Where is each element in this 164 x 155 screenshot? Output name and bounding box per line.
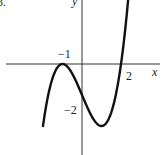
tick-label-2: 2 xyxy=(126,69,132,83)
cubic-graph: 3. y x −1 2 −2 xyxy=(0,0,164,155)
problem-label: 3. xyxy=(0,0,6,9)
tick-label-neg1: −1 xyxy=(58,47,71,61)
x-axis-label: x xyxy=(151,65,158,79)
tick-label-neg2: −2 xyxy=(64,103,77,117)
cubic-curve xyxy=(43,0,130,126)
y-axis-label: y xyxy=(71,0,78,8)
